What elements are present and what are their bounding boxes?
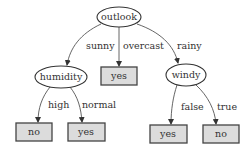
leaf-false-yes: yes bbox=[150, 125, 187, 143]
leaf-high-no: no bbox=[16, 123, 52, 141]
node-outlook: outlook bbox=[97, 7, 141, 27]
edge-label-overcast: overcast bbox=[123, 40, 164, 51]
edge-label-true: true bbox=[217, 101, 237, 112]
leaf-false-label: yes bbox=[159, 128, 176, 139]
node-windy-label: windy bbox=[172, 69, 201, 80]
decision-tree-diagram: sunny overcast rainy high normal false t… bbox=[0, 0, 252, 158]
leaf-true-no: no bbox=[203, 125, 239, 143]
edge-false bbox=[171, 85, 177, 124]
node-outlook-label: outlook bbox=[101, 11, 137, 22]
node-humidity-label: humidity bbox=[40, 71, 83, 82]
edge-label-high: high bbox=[48, 99, 69, 110]
node-windy: windy bbox=[166, 64, 206, 86]
edge-label-normal: normal bbox=[82, 99, 116, 110]
leaf-high-label: no bbox=[28, 126, 40, 137]
edge-normal bbox=[70, 87, 82, 122]
node-humidity: humidity bbox=[35, 66, 87, 88]
leaf-normal-yes: yes bbox=[68, 123, 105, 141]
edge-label-sunny: sunny bbox=[86, 40, 115, 51]
leaf-true-label: no bbox=[215, 128, 227, 139]
leaf-normal-label: yes bbox=[77, 126, 94, 137]
edge-label-rainy: rainy bbox=[177, 40, 202, 51]
leaf-overcast-yes: yes bbox=[101, 67, 137, 85]
leaf-overcast-label: yes bbox=[110, 70, 127, 81]
edge-label-false: false bbox=[181, 101, 204, 112]
